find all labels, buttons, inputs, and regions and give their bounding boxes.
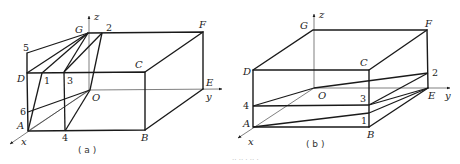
point-1-b: 1	[361, 115, 367, 126]
point-6-a: 6	[20, 106, 26, 117]
vertex-G-a: G	[75, 24, 83, 35]
cut-A-O	[28, 90, 90, 131]
box-top-back-edges-b	[253, 30, 428, 88]
cut-3-4	[64, 72, 65, 131]
cut-4-3	[253, 105, 369, 106]
vertex-E-b: E	[427, 90, 436, 101]
point-4-b: 4	[243, 100, 249, 111]
origin-label-a: O	[92, 92, 100, 103]
origin-label-b: O	[318, 90, 326, 101]
vertex-C-b: C	[360, 57, 368, 68]
vertex-B-a: B	[140, 132, 148, 143]
x-label-a: x	[21, 136, 27, 147]
cut-4-O	[253, 88, 314, 106]
vertex-C-a: C	[135, 59, 143, 70]
cut-1-G	[42, 33, 88, 73]
vertex-D-b: D	[242, 66, 251, 77]
box-front-face-b	[253, 70, 369, 127]
vertex-D-a: D	[16, 73, 25, 84]
figure-a: z y x O G F C D E A B 2 5 1 3 6 4 ( a )	[10, 11, 222, 155]
figure-b: z y x O G F C D E A B 2 3 1 4 ( b )	[238, 9, 451, 149]
point-2-a: 2	[106, 22, 112, 33]
cut-A-1	[253, 113, 369, 127]
point-2-b: 2	[432, 67, 438, 78]
edge-BE-b	[369, 88, 428, 127]
point-4-a: 4	[62, 132, 68, 143]
z-label-b: z	[318, 9, 325, 20]
edge-BE-a	[145, 89, 203, 130]
caption-a: ( a )	[78, 145, 96, 155]
x-label-b: x	[248, 136, 254, 147]
cut-4-O	[65, 90, 90, 131]
caption-b: ( b )	[306, 139, 324, 149]
edge-CF-a	[145, 32, 203, 72]
cut-3-G	[64, 33, 88, 72]
vertex-F-b: F	[424, 18, 433, 29]
y-label-a: y	[205, 91, 212, 102]
vertex-A-b: A	[242, 118, 250, 129]
diagram-canvas: z y x O G F C D E A B 2 5 1 3 6 4 ( a )	[0, 0, 460, 164]
point-5-a: 5	[23, 42, 29, 53]
x-axis-b	[238, 88, 314, 138]
point-1-a: 1	[44, 75, 50, 86]
vertex-E-a: E	[205, 77, 214, 88]
cut-D-G	[27, 33, 88, 73]
point-3-b: 3	[360, 93, 366, 104]
vertex-A-a: A	[16, 120, 24, 131]
cut-2-O	[90, 33, 102, 90]
edge-CF-b	[369, 30, 427, 70]
y-label-b: y	[444, 90, 451, 101]
vertex-G-b: G	[300, 20, 308, 31]
cut-5-G	[27, 33, 88, 53]
footer-caption: ·· ·· · ·· ·	[232, 156, 259, 164]
cut-1-A	[28, 73, 42, 131]
cut-3-E	[369, 88, 428, 105]
vertex-F-a: F	[198, 19, 207, 30]
z-label-a: z	[93, 11, 100, 22]
vertex-B-b: B	[366, 129, 374, 140]
cut-O-2	[314, 73, 428, 88]
point-3-a: 3	[67, 75, 73, 86]
